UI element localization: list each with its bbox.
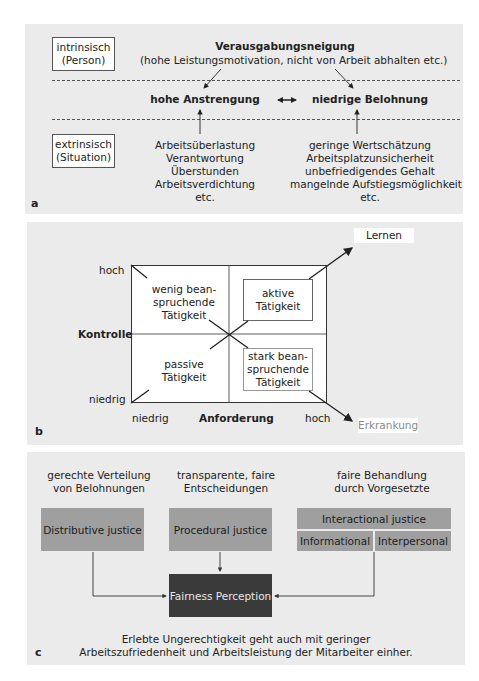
panel-b-letter: b: [35, 425, 43, 438]
panel-a: intrinsisch (Person) Verausgabungsneigun…: [25, 24, 463, 214]
panel-c-letter: c: [35, 646, 42, 659]
panel-a-arrows: [25, 24, 463, 214]
caption-line: Erlebte Ungerechtigkeit geht auch mit ge…: [27, 633, 465, 646]
caption: Erlebte Ungerechtigkeit geht auch mit ge…: [27, 633, 465, 659]
panel-b: hoch Kontrolle niedrig niedrig Anforderu…: [27, 222, 463, 445]
panel-c: gerechte Verteilung von Belohnungen tran…: [27, 452, 465, 665]
panel-a-letter: a: [31, 197, 38, 210]
caption-line: Arbeitszufriedenheit und Arbeitsleistung…: [27, 646, 465, 659]
panel-b-lines: [27, 222, 463, 445]
